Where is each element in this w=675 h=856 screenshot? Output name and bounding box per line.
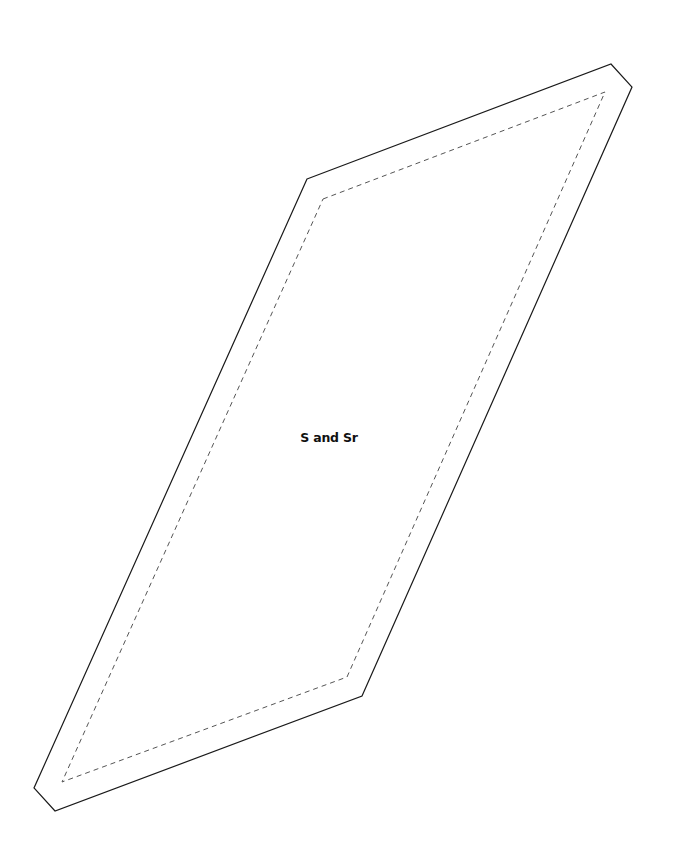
pattern-piece-diagram bbox=[0, 0, 675, 856]
piece-label: S and Sr bbox=[300, 430, 358, 445]
